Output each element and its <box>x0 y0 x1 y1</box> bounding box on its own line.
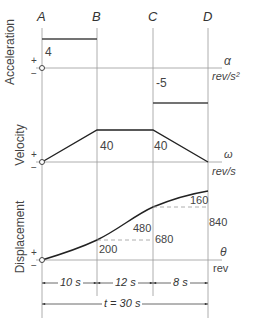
accel-plus: + <box>31 55 37 66</box>
vel-value-c: 40 <box>154 139 167 153</box>
accel-symbol: α <box>224 54 231 68</box>
displacement-title: Displacement <box>13 187 27 287</box>
acceleration-title: Acceleration <box>3 12 17 92</box>
accel-value-cd: -5 <box>156 76 167 90</box>
vel-unit: rev/s <box>212 165 236 177</box>
accel-unit: rev/s² <box>212 70 240 82</box>
time-seg3: 8 s <box>171 276 190 288</box>
time-seg1: 10 s <box>58 276 83 288</box>
point-a-label: A <box>37 9 46 24</box>
disp-value-160: 160 <box>190 194 208 206</box>
disp-plus: + <box>31 247 37 258</box>
point-c-label: C <box>148 9 157 24</box>
accel-minus: − <box>31 68 37 79</box>
time-seg2: 12 s <box>113 276 138 288</box>
time-total: t = 30 s <box>102 297 142 309</box>
disp-value-480: 480 <box>133 222 151 234</box>
disp-value-680: 680 <box>155 233 173 245</box>
vel-minus: − <box>31 162 37 173</box>
vel-symbol: ω <box>224 148 233 160</box>
disp-unit: rev <box>213 262 228 274</box>
accel-value-ab: 4 <box>45 45 52 59</box>
vel-value-b: 40 <box>100 139 113 153</box>
vel-plus: + <box>31 149 37 160</box>
point-b-label: B <box>92 9 101 24</box>
point-d-label: D <box>203 9 212 24</box>
disp-value-200: 200 <box>99 243 117 255</box>
disp-symbol: θ <box>220 245 227 259</box>
disp-value-840: 840 <box>209 216 227 228</box>
disp-minus: − <box>31 260 37 271</box>
velocity-title: Velocity <box>13 115 27 175</box>
